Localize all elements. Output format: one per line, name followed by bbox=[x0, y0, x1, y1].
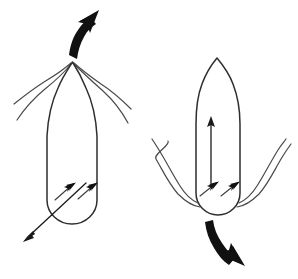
motion-arrow-up bbox=[69, 10, 99, 59]
water-intake-stream-arrow bbox=[23, 183, 86, 242]
internal-thrust-arrow-up bbox=[207, 116, 215, 183]
water-expulsion-jets bbox=[200, 182, 240, 197]
squid-mantle-body-right bbox=[196, 58, 240, 215]
squid-mantle-body-left bbox=[47, 62, 97, 224]
motion-arrow-down bbox=[205, 220, 245, 266]
tentacle-cluster-top bbox=[14, 63, 131, 123]
diagram-canvas bbox=[0, 0, 298, 279]
squid-propulsion-figure bbox=[0, 0, 298, 279]
tentacle-cluster-bottom bbox=[152, 139, 291, 207]
left-panel-water-intake-phase bbox=[14, 10, 131, 242]
right-panel-water-expulsion-phase bbox=[152, 58, 291, 266]
